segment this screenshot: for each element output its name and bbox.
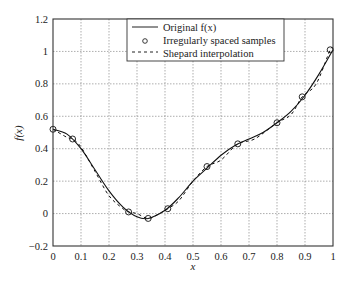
x-tick: 0.4	[158, 251, 172, 262]
x-tick: 0.9	[298, 251, 311, 262]
y-tick-labels: −0.200.20.40.60.811.2	[29, 14, 49, 252]
x-tick: 0.3	[130, 251, 143, 262]
y-tick: 0.6	[35, 111, 48, 122]
sample-markers	[50, 47, 333, 222]
y-tick: 1	[43, 46, 48, 57]
legend-label-samples: Irregularly spaced samples	[163, 35, 276, 46]
y-tick: 0.2	[35, 176, 48, 187]
shepard-curve	[53, 47, 333, 218]
x-tick: 0.6	[214, 251, 227, 262]
y-tick: 0.4	[35, 143, 49, 154]
chart: 00.10.20.30.40.50.60.70.80.91 −0.200.20.…	[0, 0, 350, 282]
y-axis-label: f(x)	[12, 125, 25, 141]
x-tick: 0.8	[270, 251, 283, 262]
x-tick: 1	[330, 251, 335, 262]
y-tick: −0.2	[29, 241, 48, 252]
legend-label-original: Original f(x)	[163, 22, 217, 34]
legend-label-shepard: Shepard interpolation	[163, 48, 254, 59]
y-tick: 0	[43, 208, 48, 219]
x-tick: 0.2	[102, 251, 115, 262]
x-tick: 0	[50, 251, 55, 262]
legend: Original f(x) Irregularly spaced samples…	[127, 19, 284, 61]
sample-point	[327, 47, 333, 53]
x-tick: 0.7	[242, 251, 255, 262]
x-axis-label: x	[190, 260, 196, 272]
y-tick: 0.8	[35, 78, 48, 89]
y-tick: 1.2	[35, 14, 48, 25]
x-tick: 0.1	[74, 251, 87, 262]
